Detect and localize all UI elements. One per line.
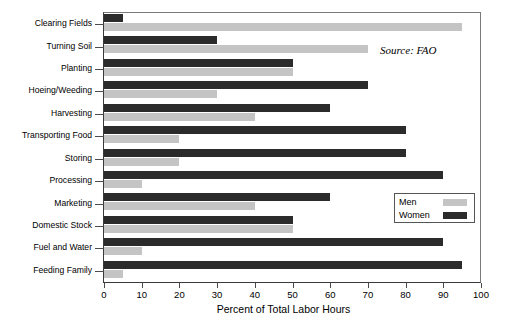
- x-axis-tick-label: 20: [164, 289, 194, 300]
- bar-men: [104, 113, 255, 121]
- x-axis-tick-label: 70: [353, 289, 383, 300]
- x-axis-tick-label: 80: [391, 289, 421, 300]
- bar-men: [104, 45, 368, 53]
- x-axis-tick-label: 10: [127, 289, 157, 300]
- y-axis-label: Storing: [0, 153, 92, 163]
- x-axis-tick-label: 0: [89, 289, 119, 300]
- bar-men: [104, 202, 255, 210]
- bar-women: [104, 216, 293, 224]
- y-axis-tick: [95, 136, 104, 137]
- bar-row: [104, 125, 481, 147]
- y-axis-label: Turning Soil: [0, 41, 92, 51]
- y-axis-label: Feeding Family: [0, 265, 92, 275]
- bar-women: [104, 238, 443, 246]
- legend-label-women: Women: [399, 210, 443, 220]
- x-axis-tick: [406, 283, 407, 288]
- y-axis-tick: [95, 24, 104, 25]
- x-axis-tick: [104, 283, 105, 288]
- bar-women: [104, 261, 462, 269]
- x-axis-tick: [217, 283, 218, 288]
- bar-men: [104, 90, 217, 98]
- x-axis-tick-label: 60: [315, 289, 345, 300]
- bar-women: [104, 59, 293, 67]
- x-axis-tick: [443, 283, 444, 288]
- x-axis-tick: [179, 283, 180, 288]
- x-axis-tick-label: 30: [202, 289, 232, 300]
- x-axis-tick-label: 40: [240, 289, 270, 300]
- bar-women: [104, 14, 123, 22]
- y-axis-tick: [95, 159, 104, 160]
- bar-men: [104, 270, 123, 278]
- y-axis-label: Domestic Stock: [0, 220, 92, 230]
- bar-men: [104, 247, 142, 255]
- bar-row: [104, 103, 481, 125]
- x-axis-tick: [255, 283, 256, 288]
- y-axis-label: Processing: [0, 175, 92, 185]
- bar-row: [104, 148, 481, 170]
- bar-women: [104, 149, 406, 157]
- x-axis-tick: [330, 283, 331, 288]
- chart-legend: Men Women: [394, 193, 475, 223]
- y-axis-tick: [95, 69, 104, 70]
- y-axis-tick: [95, 181, 104, 182]
- x-axis-title: Percent of Total Labor Hours: [0, 303, 505, 315]
- y-axis-label: Harvesting: [0, 108, 92, 118]
- y-axis-label: Planting: [0, 63, 92, 73]
- y-axis-label: Transporting Food: [0, 130, 92, 140]
- legend-label-men: Men: [399, 197, 443, 207]
- x-axis-tick: [142, 283, 143, 288]
- y-axis-tick: [95, 204, 104, 205]
- bar-women: [104, 81, 368, 89]
- bar-men: [104, 158, 179, 166]
- source-note: Source: FAO: [380, 44, 437, 56]
- bar-men: [104, 23, 462, 31]
- x-axis-tick: [293, 283, 294, 288]
- x-axis-title-text: Percent of Total Labor Hours: [217, 303, 350, 315]
- legend-swatch-women-icon: [443, 212, 467, 219]
- y-axis-tick: [95, 271, 104, 272]
- legend-item-men: Men: [399, 196, 474, 208]
- bar-men: [104, 135, 179, 143]
- bar-women: [104, 104, 330, 112]
- bar-women: [104, 126, 406, 134]
- legend-swatch-men-icon: [443, 199, 467, 206]
- bar-women: [104, 193, 330, 201]
- bar-women: [104, 171, 443, 179]
- y-axis-tick: [95, 47, 104, 48]
- x-axis-tick-labels: 0102030405060708090100: [0, 289, 505, 303]
- y-axis-tick: [95, 248, 104, 249]
- y-axis-label: Hoeing/Weeding: [0, 85, 92, 95]
- bar-row: [104, 260, 481, 282]
- y-axis-label: Marketing: [0, 198, 92, 208]
- y-axis-label: Fuel and Water: [0, 242, 92, 252]
- x-axis-tick-label: 100: [466, 289, 496, 300]
- bar-men: [104, 180, 142, 188]
- bar-row: [104, 13, 481, 35]
- bar-row: [104, 80, 481, 102]
- legend-item-women: Women: [399, 209, 474, 221]
- x-axis-tick: [368, 283, 369, 288]
- bar-chart: Clearing FieldsTurning SoilPlantingHoein…: [0, 0, 505, 325]
- x-axis-tick: [481, 283, 482, 288]
- x-axis-tick-label: 90: [428, 289, 458, 300]
- bar-women: [104, 36, 217, 44]
- y-axis-tick: [95, 226, 104, 227]
- bar-men: [104, 68, 293, 76]
- y-axis-label: Clearing Fields: [0, 18, 92, 28]
- bar-row: [104, 58, 481, 80]
- bar-men: [104, 225, 293, 233]
- y-axis-tick: [95, 91, 104, 92]
- bar-row: [104, 237, 481, 259]
- bar-row: [104, 170, 481, 192]
- x-axis-tick-label: 50: [278, 289, 308, 300]
- y-axis-tick: [95, 114, 104, 115]
